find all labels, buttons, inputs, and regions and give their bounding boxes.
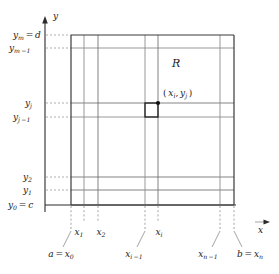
x-tick-label-xn1: xn −1 [198,249,217,260]
sample-point-label-text: ( xi, yj ) [163,88,192,100]
slant-x0 [63,231,71,247]
region-label-R: R [171,57,180,70]
y-tick-label-ym: ym = d [12,30,41,41]
y-tick-label-yj1: yj −1 [12,112,30,124]
y-tick-labels: ym = d ym −1 yj yj −1 y2 y1 y0 = c [7,30,41,211]
slant-xn [234,231,242,247]
y-tick-label-y0: y0 = c [7,200,33,211]
x-tick-label-x2: x2 [96,227,105,238]
y-axis-arrowhead [42,16,48,24]
y-tick-label-ym1: ym −1 [8,43,30,54]
x-tick-label-xi1: xi −1 [125,249,142,260]
x-axis-label: x [258,225,263,235]
y-tick-label-yj: yj [24,98,32,110]
slant-xn1 [212,231,220,247]
x-tick-labels-lower: a = x0 xi −1 xn −1 b = xn [48,249,263,260]
x-tick-labels-upper: x1 x2 xi [74,227,162,238]
x-drop-leaders [71,206,234,231]
vertical-grid-lines [84,35,220,205]
x-tick-label-xn: b = xn [237,249,263,260]
sample-point-label: ( xi, yj ) [163,88,192,100]
sample-point-dot [156,101,160,105]
x-slant-leaders [63,231,242,247]
rectangle-R-border [71,35,234,205]
highlighted-subrectangle [145,103,158,117]
y-tick-label-y1: y1 [22,185,32,196]
horizontal-grid-lines [71,48,234,190]
y-leader-lines [46,35,71,190]
x-tick-label-x0: a = x0 [48,249,74,260]
x-tick-label-xi: xi [155,227,162,238]
riemann-partition-figure: y x R ( xi, yj ) ym = d ym −1 yj yj −1 [0,0,279,274]
x-axis-arrowhead [264,219,271,224]
slant-xi1 [137,231,145,247]
x-tick-label-x1: x1 [74,227,83,238]
figure-canvas: y x R ( xi, yj ) ym = d ym −1 yj yj −1 [0,0,279,274]
y-tick-label-y2: y2 [22,172,32,183]
axes-group [42,16,270,225]
y-axis-label: y [52,11,59,21]
